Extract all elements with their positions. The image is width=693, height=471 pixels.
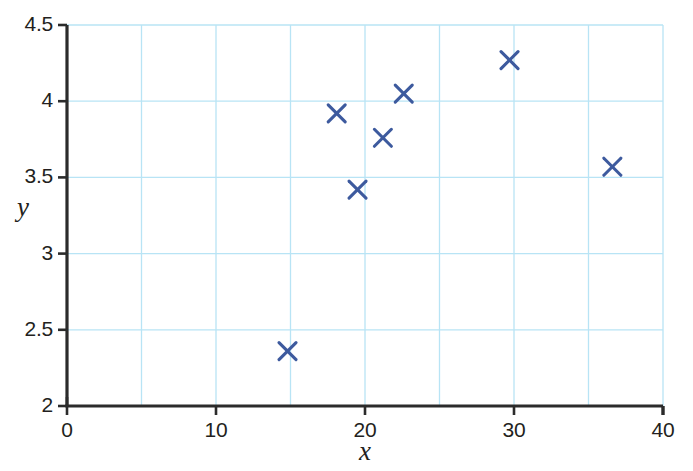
data-point-marker xyxy=(501,52,518,69)
y-axis-tick-label: 2.5 xyxy=(0,317,53,341)
y-axis-tick-label: 3 xyxy=(0,241,53,265)
axis-tick-marks xyxy=(58,25,663,415)
scatter-chart: 22.533.544.5 010203040 y x xyxy=(0,0,693,471)
x-axis-label: x xyxy=(348,436,382,467)
x-axis-tick-label: 30 xyxy=(484,418,544,442)
data-point-marker xyxy=(604,158,621,175)
data-point-marker xyxy=(349,181,366,198)
y-axis-tick-label: 2 xyxy=(0,393,53,417)
grid-lines-vertical xyxy=(142,25,664,406)
y-axis-label: y xyxy=(6,192,40,223)
plot-area xyxy=(0,0,693,471)
x-axis-tick-label: 10 xyxy=(186,418,246,442)
y-axis-tick-label: 4.5 xyxy=(0,12,53,36)
y-axis-tick-label: 3.5 xyxy=(0,164,53,188)
data-point-marker xyxy=(328,105,345,122)
x-axis-tick-label: 40 xyxy=(633,418,693,442)
data-point-marker xyxy=(374,129,391,146)
x-axis-tick-label: 0 xyxy=(37,418,97,442)
data-point-marker xyxy=(279,343,296,360)
data-point-markers xyxy=(279,52,621,360)
axis-lines xyxy=(65,25,663,415)
y-axis-tick-label: 4 xyxy=(0,88,53,112)
data-point-marker xyxy=(395,85,412,102)
